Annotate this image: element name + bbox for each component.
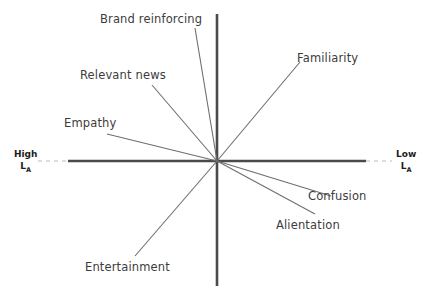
label-relevant-news: Relevant news [80,69,166,82]
axis-label-right-low: Low LA [396,149,416,174]
label-familiarity: Familiarity [297,52,358,65]
diagram-svg [0,0,434,297]
ray-alientation [217,161,315,214]
ray-familiarity [217,62,300,161]
axis-label-left-high: High LA [14,149,37,174]
axis-label-right-line2: LA [396,161,416,174]
ray-entertainment [135,161,217,256]
label-entertainment: Entertainment [85,261,170,274]
ray-relevant-news [152,85,217,161]
label-alientation: Alientation [276,219,340,232]
axis-label-right-subscript: A [406,166,411,174]
diagram-canvas: Brand reinforcing Relevant news Empathy … [0,0,434,297]
axis-label-left-subscript: A [26,166,31,174]
axis-label-left-line2: LA [14,161,37,174]
label-empathy: Empathy [64,117,116,130]
label-confusion: Confusion [308,190,367,203]
axis-label-right-line1: Low [396,149,416,159]
axis-label-left-line1: High [14,149,37,159]
ray-brand-reinforcing [195,28,217,161]
ray-empathy [107,134,217,161]
label-brand-reinforcing: Brand reinforcing [100,13,202,26]
